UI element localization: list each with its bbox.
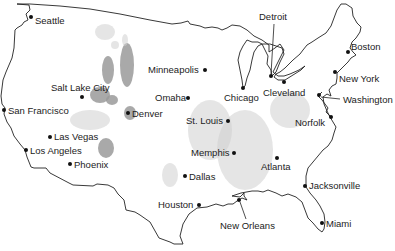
city-denver: Denver bbox=[126, 108, 163, 119]
city-label: St. Louis bbox=[186, 115, 223, 126]
city-dallas: Dallas bbox=[183, 171, 216, 182]
city-dot-icon bbox=[320, 221, 324, 225]
city-dot-icon bbox=[203, 68, 207, 72]
city-label: Detroit bbox=[259, 11, 287, 22]
city-label: Norfolk bbox=[295, 117, 325, 128]
city-dot-icon bbox=[282, 80, 286, 84]
city-label: New York bbox=[339, 73, 379, 84]
city-dot-icon bbox=[237, 198, 241, 202]
us-city-map: SeattleSalt Lake CitySan FranciscoLas Ve… bbox=[0, 0, 395, 251]
city-dot-icon bbox=[2, 108, 6, 112]
city-chicago: Chicago bbox=[224, 86, 259, 103]
city-minneapolis: Minneapolis bbox=[148, 64, 207, 75]
city-label: Los Angeles bbox=[30, 145, 82, 156]
new-orleans-leader-line bbox=[240, 202, 246, 219]
city-dot-icon bbox=[126, 111, 130, 115]
city-phoenix: Phoenix bbox=[68, 159, 109, 170]
city-boston: Boston bbox=[346, 41, 381, 54]
washington-leader-line bbox=[321, 97, 340, 99]
city-label: San Francisco bbox=[8, 105, 69, 116]
city-las-vegas: Las Vegas bbox=[48, 131, 99, 142]
city-label: Boston bbox=[351, 41, 381, 52]
city-dot-icon bbox=[317, 93, 321, 97]
city-omaha: Omaha bbox=[155, 92, 190, 103]
city-label: Las Vegas bbox=[54, 131, 99, 142]
city-label: Salt Lake City bbox=[51, 82, 110, 93]
city-label: Atlanta bbox=[261, 161, 291, 172]
city-jacksonville: Jacksonville bbox=[303, 180, 360, 191]
city-dot-icon bbox=[303, 184, 307, 188]
city-label: Miami bbox=[326, 218, 351, 229]
city-label: Cleveland bbox=[263, 87, 305, 98]
city-dot-icon bbox=[275, 156, 279, 160]
city-new-orleans: New Orleans bbox=[220, 198, 275, 231]
city-dot-icon bbox=[241, 86, 245, 90]
city-label: Washington bbox=[343, 94, 393, 105]
city-new-york: New York bbox=[333, 70, 379, 84]
city-label: Seattle bbox=[35, 15, 65, 26]
city-san-francisco: San Francisco bbox=[2, 105, 69, 116]
city-dot-icon bbox=[333, 70, 337, 74]
city-label: Jacksonville bbox=[309, 180, 360, 191]
city-dot-icon bbox=[226, 119, 230, 123]
city-label: Dallas bbox=[189, 171, 216, 182]
city-markers: SeattleSalt Lake CitySan FranciscoLas Ve… bbox=[2, 11, 393, 231]
city-seattle: Seattle bbox=[29, 15, 65, 26]
city-label: Denver bbox=[132, 108, 163, 119]
city-dot-icon bbox=[68, 162, 72, 166]
city-dot-icon bbox=[346, 50, 350, 54]
city-label: Omaha bbox=[155, 92, 187, 103]
city-dot-icon bbox=[329, 115, 333, 119]
city-label: Memphis bbox=[191, 147, 230, 158]
city-dot-icon bbox=[24, 148, 28, 152]
city-dot-icon bbox=[197, 203, 201, 207]
city-dot-icon bbox=[183, 174, 187, 178]
city-dot-icon bbox=[48, 135, 52, 139]
city-dot-icon bbox=[269, 74, 273, 78]
city-label: Minneapolis bbox=[148, 64, 199, 75]
city-houston: Houston bbox=[158, 199, 201, 210]
city-dot-icon bbox=[232, 151, 236, 155]
lake-michigan bbox=[238, 40, 262, 88]
city-label: New Orleans bbox=[220, 220, 275, 231]
city-norfolk: Norfolk bbox=[295, 115, 333, 128]
city-dot-icon bbox=[80, 95, 84, 99]
city-memphis: Memphis bbox=[191, 147, 236, 158]
city-dot-icon bbox=[186, 96, 190, 100]
city-label: Houston bbox=[158, 199, 193, 210]
city-cleveland: Cleveland bbox=[263, 80, 305, 98]
city-dot-icon bbox=[29, 15, 33, 19]
city-label: Phoenix bbox=[74, 159, 109, 170]
city-label: Chicago bbox=[224, 92, 259, 103]
city-los-angeles: Los Angeles bbox=[24, 145, 82, 156]
